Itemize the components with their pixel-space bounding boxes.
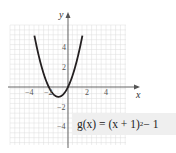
x-tick-neg4: −4: [25, 88, 34, 97]
y-axis-label: y: [58, 9, 64, 20]
function-equation-label: g(x) = (x + 1)2 − 1: [72, 113, 176, 135]
y-tick-neg2: −2: [57, 103, 66, 112]
y-tick-4: 4: [62, 43, 66, 52]
y-tick-neg4: −4: [57, 122, 66, 131]
equation-lhs: g(x) = (x + 1): [77, 118, 140, 130]
y-axis: [66, 12, 71, 148]
y-axis-arrow-icon: [66, 12, 71, 18]
x-tick-2: 2: [85, 88, 89, 97]
x-tick-4: 4: [104, 88, 108, 97]
equation-rhs: − 1: [143, 118, 158, 130]
x-tick-neg2: −2: [44, 88, 53, 97]
y-tick-2: 2: [62, 63, 66, 72]
x-axis-label: x: [135, 89, 141, 100]
